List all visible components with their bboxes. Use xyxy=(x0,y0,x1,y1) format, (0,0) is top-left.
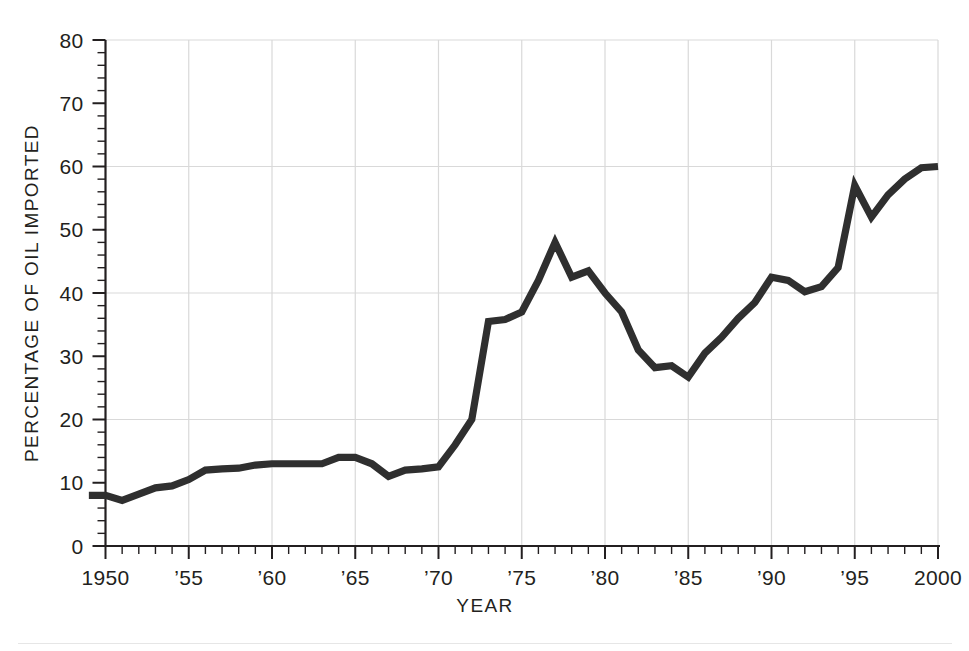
x-tick-label-1955: ’55 xyxy=(174,566,203,589)
y-tick-label-10: 10 xyxy=(60,471,84,494)
y-tick-label-30: 30 xyxy=(60,345,84,368)
y-axis-tick-labels: 01020304050607080 xyxy=(60,29,84,558)
x-tick-label-1960: ’60 xyxy=(258,566,287,589)
y-tick-label-40: 40 xyxy=(60,282,84,305)
y-axis-title: PERCENTAGE OF OIL IMPORTED xyxy=(21,124,42,462)
x-axis-title: YEAR xyxy=(456,595,513,616)
y-tick-label-50: 50 xyxy=(60,218,84,241)
x-tick-label-1950: 1950 xyxy=(82,566,130,589)
chart-figure: 01020304050607080 1950’55’60’65’70’75’80… xyxy=(0,0,969,651)
line-chart-svg: 01020304050607080 1950’55’60’65’70’75’80… xyxy=(0,0,969,651)
y-tick-label-80: 80 xyxy=(60,29,84,52)
x-tick-label-1970: ’70 xyxy=(424,566,453,589)
y-tick-label-60: 60 xyxy=(60,155,84,178)
x-tick-label-1965: ’65 xyxy=(341,566,370,589)
x-tick-label-1995: ’95 xyxy=(840,566,869,589)
x-tick-label-1975: ’75 xyxy=(507,566,536,589)
y-tick-label-70: 70 xyxy=(60,92,84,115)
y-tick-label-20: 20 xyxy=(60,408,84,431)
x-tick-label-1990: ’90 xyxy=(757,566,786,589)
y-tick-label-0: 0 xyxy=(72,535,84,558)
x-tick-label-2000: 2000 xyxy=(914,566,962,589)
x-tick-label-1980: ’80 xyxy=(591,566,620,589)
x-tick-label-1985: ’85 xyxy=(674,566,703,589)
